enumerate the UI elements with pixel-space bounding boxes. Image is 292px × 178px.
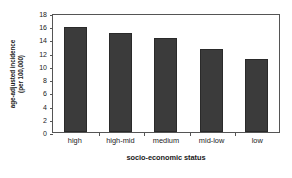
bar <box>109 33 132 132</box>
bar <box>200 49 223 132</box>
x-axis-tick-label: medium <box>143 136 189 145</box>
x-axis-tick-label: high <box>52 136 98 145</box>
bar <box>245 59 268 132</box>
y-axis-title-line-2: (per 100,000) <box>17 39 25 107</box>
y-axis-tick-mark <box>50 81 54 82</box>
x-axis-tick-label: high-mid <box>98 136 144 145</box>
y-axis-tick-mark <box>50 55 54 56</box>
y-axis-tick-label: 18 <box>28 11 47 18</box>
y-axis-tick-label: 0 <box>28 130 47 137</box>
y-axis-tick-mark <box>50 41 54 42</box>
x-axis-tick-label: mid-low <box>189 136 235 145</box>
x-axis-tick-labels: highhigh-midmediummid-lowlow <box>52 136 280 148</box>
y-axis-tick-label: 16 <box>28 24 47 31</box>
x-axis-tick-mark <box>235 132 236 136</box>
y-axis-tick-label: 4 <box>28 103 47 110</box>
x-axis-tick-label: low <box>234 136 280 145</box>
x-axis-tick-mark <box>144 132 145 136</box>
y-axis-tick-mark <box>50 28 54 29</box>
y-axis-tick-label: 6 <box>28 90 47 97</box>
bar-chart-figure: age-adjusted incidence (per 100,000) 024… <box>0 0 292 178</box>
y-axis-tick-label: 8 <box>28 77 47 84</box>
y-axis-tick-label: 10 <box>28 63 47 70</box>
y-axis-tick-label: 12 <box>28 50 47 57</box>
y-axis-tick-label: 14 <box>28 37 47 44</box>
x-axis-title: socio-economic status <box>52 153 280 162</box>
y-axis-title: age-adjusted incidence (per 100,000) <box>6 14 28 133</box>
y-axis-tick-mark <box>50 68 54 69</box>
y-axis-tick-label: 2 <box>28 116 47 123</box>
y-axis-title-text: age-adjusted incidence (per 100,000) <box>9 39 25 107</box>
y-axis-tick-mark <box>50 134 54 135</box>
x-axis-tick-mark <box>190 132 191 136</box>
bar <box>154 38 177 132</box>
bar <box>64 27 87 132</box>
y-axis-tick-mark <box>50 15 54 16</box>
y-axis-tick-labels: 024681012141618 <box>28 14 47 133</box>
plot-area <box>52 14 280 133</box>
y-axis-title-line-1: age-adjusted incidence <box>9 39 16 107</box>
x-axis-tick-mark <box>99 132 100 136</box>
y-axis-tick-mark <box>50 121 54 122</box>
bar-series <box>53 15 279 132</box>
y-axis-tick-mark <box>50 94 54 95</box>
y-axis-tick-mark <box>50 108 54 109</box>
